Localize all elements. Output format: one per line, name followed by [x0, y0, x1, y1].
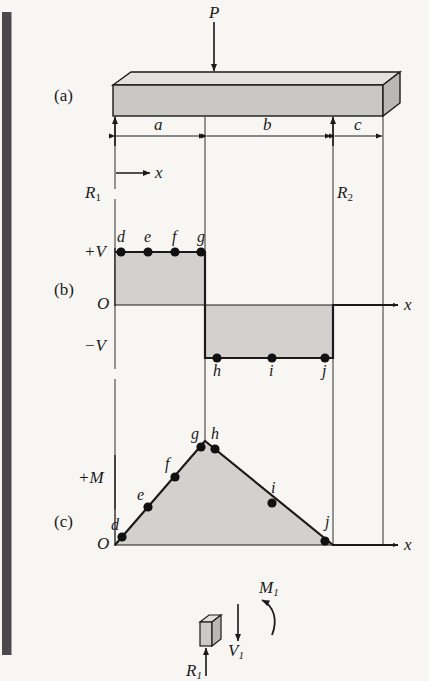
- element-R1-label: R1: [186, 661, 202, 681]
- moment-label-d: d: [111, 516, 119, 534]
- shear-label-f: f: [172, 228, 176, 246]
- shear-positive-axis-label: +V: [84, 242, 106, 262]
- moment-positive-axis-label: +M: [78, 468, 104, 488]
- beam-front-face: [113, 85, 383, 116]
- shear-negative-area: [205, 305, 333, 358]
- moment-point-j: [320, 536, 329, 545]
- panel-label-a: (a): [54, 86, 73, 106]
- shear-negative-axis-label: −V: [84, 336, 106, 356]
- dimension-a-label: a: [154, 115, 163, 135]
- x-direction-label: x: [155, 163, 163, 183]
- beam-top-face: [113, 72, 400, 85]
- moment-point-g: [196, 442, 205, 451]
- dimension-b-label: b: [263, 115, 272, 135]
- moment-label-h: h: [211, 425, 219, 443]
- moment-x-axis-label: x: [404, 535, 412, 555]
- moment-point-f: [170, 472, 179, 481]
- moment-label-i: i: [271, 479, 275, 497]
- shear-label-g: g: [197, 228, 205, 246]
- moment-label-e: e: [137, 486, 144, 504]
- shear-x-axis-label: x: [404, 295, 412, 315]
- shear-origin-label: O: [97, 294, 109, 314]
- shear-label-i: i: [269, 362, 273, 380]
- panel-label-c: (c): [54, 512, 73, 532]
- element-M1-label: M1: [259, 578, 279, 598]
- reaction-R2-label: R2: [337, 183, 353, 203]
- shear-label-d: d: [117, 228, 125, 246]
- element-front-face: [200, 622, 212, 646]
- moment-label-j: j: [325, 513, 329, 531]
- moment-label-g: g: [191, 425, 199, 443]
- dimension-c-label: c: [354, 115, 362, 135]
- shear-point-g: [196, 247, 205, 256]
- shear-positive-area: [115, 252, 205, 305]
- load-P-label: P: [209, 3, 219, 23]
- shear-label-h: h: [213, 362, 221, 380]
- shear-point-f: [170, 247, 179, 256]
- shear-point-d: [116, 247, 125, 256]
- moment-point-h: [210, 444, 219, 453]
- reaction-R1-label: R1: [85, 183, 101, 203]
- moment-point-i: [267, 498, 276, 507]
- left-margin-bar: [2, 12, 12, 655]
- shear-label-j: j: [322, 362, 326, 380]
- moment-label-f: f: [165, 455, 169, 473]
- panel-label-b: (b): [54, 280, 74, 300]
- shear-label-e: e: [144, 228, 151, 246]
- moment-point-e: [143, 502, 152, 511]
- element-V1-label: V1: [228, 641, 244, 661]
- shear-point-e: [143, 247, 152, 256]
- moment-origin-label: O: [97, 534, 109, 554]
